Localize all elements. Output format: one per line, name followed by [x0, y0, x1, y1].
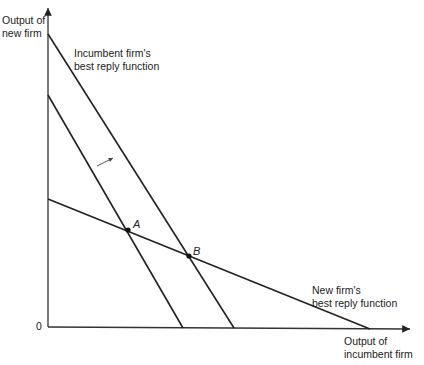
x-axis-label-line2: incumbent firm [344, 348, 413, 361]
x-axis-label: Output of incumbent firm [344, 335, 413, 361]
x-axis-label-line1: Output of [344, 335, 413, 348]
incumbent-label: Incumbent firm's best reply function [74, 47, 159, 73]
incumbent-label-line1: Incumbent firm's [74, 47, 159, 60]
best-reply-diagram [0, 0, 424, 365]
shift-arrow-icon [97, 158, 113, 166]
point-b-label: B [193, 245, 200, 257]
incumbent-best-reply-original [48, 95, 183, 328]
new-firm-label-line1: New firm's [312, 284, 397, 297]
y-axis-label-line1: Output of [2, 14, 45, 27]
incumbent-label-line2: best reply function [74, 60, 159, 73]
new-firm-label: New firm's best reply function [312, 284, 397, 310]
incumbent-best-reply-shifted [48, 34, 234, 328]
point-a-label: A [133, 218, 140, 230]
point-b-marker [186, 253, 191, 258]
x-axis [48, 327, 410, 329]
y-axis-label-line2: new firm [2, 27, 45, 40]
new-firm-label-line2: best reply function [312, 297, 397, 310]
point-a-marker [125, 227, 130, 232]
origin-label: 0 [36, 320, 42, 333]
y-axis-label: Output of new firm [2, 14, 45, 40]
